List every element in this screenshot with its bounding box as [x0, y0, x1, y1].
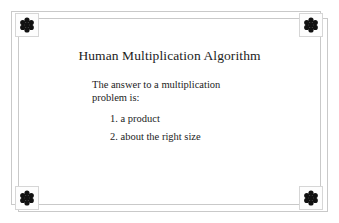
corner-ornament-top-left [15, 13, 39, 37]
list-item: 1. a product [110, 113, 310, 124]
body-line-2: problem is: [92, 92, 282, 105]
frame-outer-rect [11, 11, 321, 205]
six-petal-flower-icon [303, 190, 319, 206]
slide-body: The answer to a multiplication problem i… [92, 79, 282, 104]
six-petal-flower-icon [19, 190, 35, 206]
corner-ornament-bottom-right [299, 186, 323, 210]
corner-ornament-top-right [299, 13, 323, 37]
list-item: 2. about the right size [110, 131, 310, 142]
body-line-1: The answer to a multiplication [92, 79, 282, 92]
six-petal-flower-icon [303, 17, 319, 33]
corner-ornament-bottom-left [15, 186, 39, 210]
slide-canvas: Human Multiplication Algorithm The answe… [0, 0, 339, 223]
six-petal-flower-icon [19, 17, 35, 33]
numbered-list: 1. a product 2. about the right size [110, 113, 310, 142]
slide-title: Human Multiplication Algorithm [0, 48, 339, 64]
